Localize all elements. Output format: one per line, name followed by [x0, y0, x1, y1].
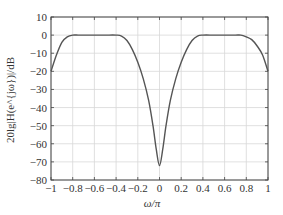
x-tick-labels: −1−0.8−0.6−0.4−0.200.20.40.60.81: [45, 182, 271, 194]
y-tick-label: −50: [30, 120, 48, 132]
y-tick-label: −30: [30, 83, 48, 95]
y-tick-label: −60: [30, 138, 48, 150]
x-tick-label: −0.6: [84, 182, 104, 194]
y-tick-label: −40: [30, 102, 48, 114]
x-tick-label: −0.8: [63, 182, 83, 194]
y-tick-labels: 100−10−20−30−40−50−60−70−80: [30, 11, 48, 186]
y-axis-label: 20lg|H(e^{jω})|/dB: [4, 57, 17, 143]
y-tick-label: 10: [36, 11, 48, 23]
grid-lines: [51, 17, 268, 180]
y-tick-label: −10: [30, 47, 48, 59]
x-tick-label: −0.4: [106, 182, 126, 194]
x-tick-label: −0.2: [128, 182, 148, 194]
x-tick-label: 0: [157, 182, 163, 194]
y-tick-label: −80: [30, 174, 48, 186]
x-axis-label: ω/π: [144, 197, 161, 209]
y-tick-label: 0: [42, 29, 48, 41]
magnitude-response-chart: −1−0.8−0.6−0.4−0.200.20.40.60.81 100−10−…: [0, 0, 283, 215]
x-tick-label: 0.2: [174, 182, 188, 194]
x-tick-label: 1: [265, 182, 271, 194]
y-tick-label: −20: [30, 65, 48, 77]
x-tick-label: 0.6: [218, 182, 232, 194]
x-tick-label: 0.4: [196, 182, 210, 194]
y-tick-label: −70: [30, 156, 48, 168]
x-tick-label: 0.8: [239, 182, 253, 194]
